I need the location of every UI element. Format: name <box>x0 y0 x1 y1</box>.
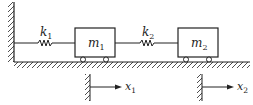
spring-k2: k2 <box>115 25 178 46</box>
spring-k1-label: k1 <box>40 25 52 41</box>
coordinate-x1-label: x1 <box>125 80 136 95</box>
mass-m1: m1 <box>75 28 115 62</box>
ground <box>14 62 250 68</box>
coordinate-x1: x1 <box>85 74 136 101</box>
coordinate-x2-label: x2 <box>237 80 248 95</box>
mass-m2: m2 <box>178 28 218 62</box>
left-wall <box>8 2 14 62</box>
arrow-right-icon <box>227 85 234 90</box>
spring-mass-diagram: k1 m1 k2 m2 x1 x2 <box>0 0 253 105</box>
arrow-right-icon <box>115 85 122 90</box>
spring-k1: k1 <box>14 25 75 46</box>
spring-k2-label: k2 <box>142 25 154 41</box>
coordinate-x2: x2 <box>197 74 248 101</box>
